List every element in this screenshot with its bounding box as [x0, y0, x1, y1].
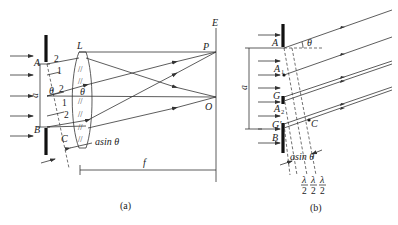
label-A-b: A	[271, 37, 279, 48]
single-slit-diffraction-diagram: a A B 2 1 2 1 2 θ L // // // // // // θ …	[0, 0, 398, 225]
label-A2: A	[273, 103, 281, 114]
zone-number: 1	[62, 98, 67, 108]
label-G: G	[273, 90, 280, 101]
svg-text:λ: λ	[310, 174, 316, 185]
label-C: C	[61, 133, 68, 144]
caption-a: (a)	[120, 200, 131, 212]
label-f: f	[143, 157, 147, 168]
zone-number: 1	[57, 66, 62, 76]
svg-text:2: 2	[320, 186, 325, 196]
label-A1: A	[273, 63, 281, 74]
svg-text://: //	[78, 123, 83, 132]
svg-text:λ: λ	[301, 174, 307, 185]
figure-b: a A A 1 G A 2 G′ B C θ	[238, 10, 392, 214]
label-a-b: a	[238, 85, 249, 90]
label-asin-theta: asin θ	[95, 136, 119, 147]
svg-text:2: 2	[311, 186, 316, 196]
label-L: L	[76, 40, 83, 51]
half-wavelength-labels: λ 2 λ 2 λ 2	[301, 174, 326, 196]
svg-text://: //	[78, 135, 83, 144]
svg-text://: //	[78, 110, 83, 119]
zone-number: 2	[64, 110, 69, 120]
label-P: P	[202, 41, 209, 52]
figure-a: a A B 2 1 2 1 2 θ L // // // // // // θ …	[10, 17, 218, 212]
label-G-prime: G′	[272, 119, 282, 130]
label-B-b: B	[272, 132, 278, 143]
svg-text:2: 2	[281, 108, 284, 115]
svg-text://: //	[78, 77, 83, 86]
label-B: B	[34, 124, 40, 135]
label-theta-lens: θ	[80, 86, 85, 97]
caption-b: (b)	[310, 202, 322, 214]
label-O: O	[205, 101, 212, 112]
svg-text:1: 1	[281, 68, 284, 75]
label-asin-theta-b: asin θ	[290, 151, 314, 162]
label-a: a	[29, 93, 40, 98]
svg-text://: //	[78, 65, 83, 74]
svg-text://: //	[78, 97, 83, 106]
svg-text:2: 2	[302, 186, 307, 196]
label-E: E	[211, 17, 218, 28]
label-C-b: C	[311, 118, 318, 129]
svg-text:λ: λ	[319, 174, 325, 185]
label-A: A	[33, 57, 41, 68]
